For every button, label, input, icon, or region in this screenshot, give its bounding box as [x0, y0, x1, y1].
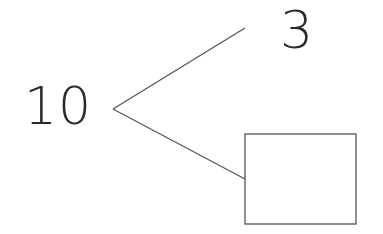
part-number-top: 3 — [280, 4, 313, 56]
connector-line-bottom — [113, 109, 245, 179]
whole-number: 10 — [24, 80, 92, 132]
answer-box[interactable] — [245, 134, 356, 224]
connector-line-top — [113, 28, 245, 109]
